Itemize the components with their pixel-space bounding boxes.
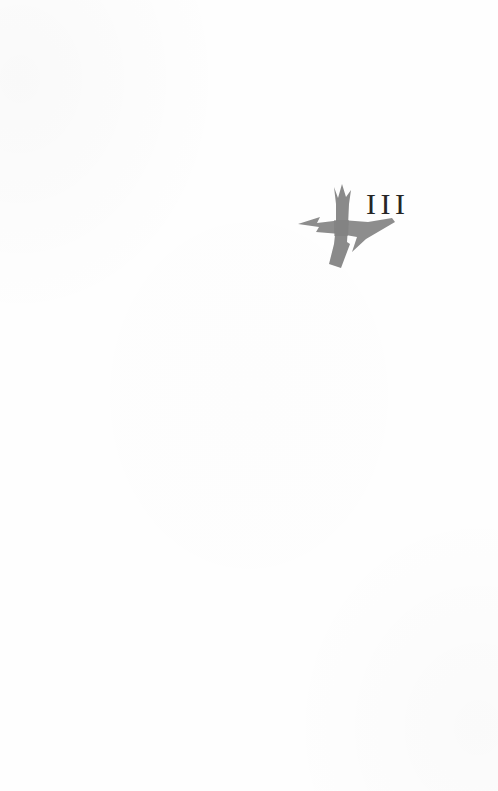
paper-grain-texture xyxy=(0,0,498,791)
part-title-page: III xyxy=(0,0,498,791)
part-number: III xyxy=(366,182,424,226)
part-title-mark: III xyxy=(296,182,426,277)
